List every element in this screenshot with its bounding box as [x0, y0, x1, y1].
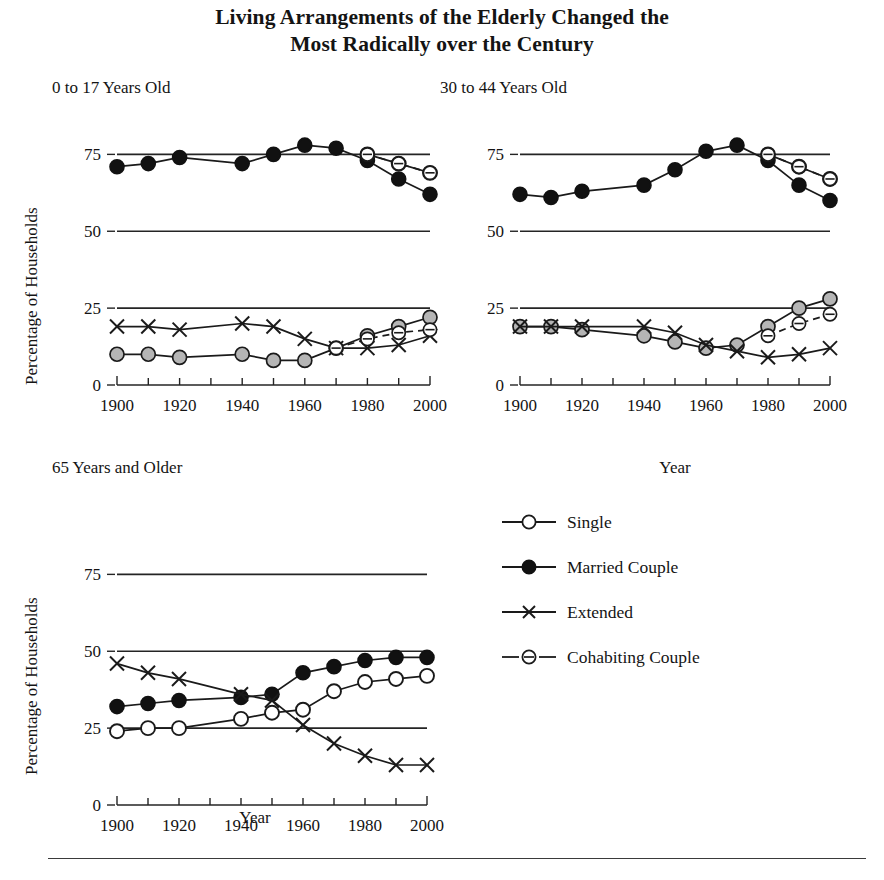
marker-open-circle	[358, 675, 372, 689]
marker-filled-circle	[575, 184, 589, 198]
plot-area-0-to-17: 0255075190019201940196019802000	[0, 70, 450, 410]
series-single	[513, 292, 837, 355]
marker-gray-circle	[298, 353, 312, 367]
y-axis-tick-label: 25	[84, 299, 101, 318]
marker-open-circle	[296, 703, 310, 717]
marker-filled-circle	[110, 160, 124, 174]
plot-area-30-to-44: 0255075190019201940196019802000	[403, 70, 884, 410]
marker-filled-circle	[699, 144, 713, 158]
marker-gray-circle	[792, 301, 806, 315]
marker-filled-circle	[172, 693, 186, 707]
x-axis-tick-label: 1980	[350, 396, 384, 415]
series-married-couple	[110, 650, 434, 713]
x-axis-tick-label: 1960	[288, 396, 322, 415]
legend-swatch-single	[500, 511, 558, 533]
legend-item-cohabiting-couple[interactable]: Cohabiting Couple	[500, 645, 700, 669]
x-axis-tick-label: 1900	[503, 396, 537, 415]
x-axis-tick-label: 1960	[689, 396, 723, 415]
y-axis-tick-label: 0	[93, 796, 102, 815]
marker-filled-circle	[730, 138, 744, 152]
marker-gray-circle	[235, 347, 249, 361]
x-axis-tick-label: 1900	[100, 816, 134, 835]
marker-open-circle	[234, 712, 248, 726]
series-extended	[110, 317, 437, 356]
footer-rule	[48, 858, 866, 859]
legend-item-extended[interactable]: Extended	[500, 600, 633, 624]
y-axis-tick-label: 75	[487, 145, 504, 164]
x-axis-labels: 190019201940196019802000	[503, 396, 847, 415]
panel-0-to-17: 0 to 17 Years Old Percentage of Househol…	[0, 70, 450, 410]
series-single	[110, 310, 437, 367]
legend-label-single: Single	[567, 512, 612, 533]
y-axis-tick-label: 0	[93, 376, 102, 395]
panel-30-to-44: 30 to 44 Years Old 025507519001920194019…	[403, 70, 884, 490]
x-axis-title-panel2: Year	[635, 458, 715, 478]
marker-filled-circle	[637, 178, 651, 192]
x-axis-tick-label: 2000	[813, 396, 847, 415]
marker-filled-circle	[173, 150, 187, 164]
x-axis-tick-label: 1920	[163, 396, 197, 415]
marker-open-circle	[110, 724, 124, 738]
marker-gray-circle	[141, 347, 155, 361]
marker-filled-circle	[358, 653, 372, 667]
y-axis-tick-label: 0	[496, 376, 505, 395]
y-axis-tick-label: 50	[84, 642, 101, 661]
x-axis	[117, 376, 430, 385]
legend-label-cohabiting-couple: Cohabiting Couple	[567, 647, 700, 668]
y-axis: 0255075	[84, 565, 115, 815]
panel-65-and-older: 65 Years and Older Percentage of Househo…	[0, 450, 450, 850]
y-axis: 0255075	[487, 145, 518, 395]
marker-gray-circle	[575, 323, 589, 337]
series-married-couple	[110, 138, 437, 201]
marker-filled-circle	[141, 697, 155, 711]
marker-gray-circle	[110, 347, 124, 361]
y-axis-tick-label: 50	[487, 222, 504, 241]
marker-open-circle	[327, 684, 341, 698]
x-axis	[520, 376, 830, 385]
figure-title: Living Arrangements of the Elderly Chang…	[0, 4, 884, 58]
marker-filled-circle	[544, 190, 558, 204]
gridlines	[117, 154, 430, 308]
marker-filled-circle	[110, 700, 124, 714]
marker-filled-circle	[235, 157, 249, 171]
marker-gray-circle	[173, 350, 187, 364]
marker-open-circle	[265, 706, 279, 720]
marker-filled-circle	[389, 650, 403, 664]
legend-label-extended: Extended	[567, 602, 633, 623]
y-axis-tick-label: 25	[84, 719, 101, 738]
x-axis-tick-label: 1940	[627, 396, 661, 415]
legend-item-married-couple[interactable]: Married Couple	[500, 555, 678, 579]
x-axis-tick-label: 1940	[225, 396, 259, 415]
series-married-couple	[513, 138, 837, 207]
y-axis-tick-label: 75	[84, 145, 101, 164]
panel-title-65-and-older: 65 Years and Older	[52, 458, 182, 478]
marker-filled-circle	[668, 163, 682, 177]
legend-item-single[interactable]: Single	[500, 510, 612, 534]
legend-swatch-extended	[500, 601, 558, 623]
x-axis-title-panel3: Year	[215, 808, 295, 828]
figure-root: Living Arrangements of the Elderly Chang…	[0, 0, 884, 880]
figure-title-line2: Most Radically over the Century	[0, 31, 884, 58]
figure-title-line1: Living Arrangements of the Elderly Chang…	[215, 5, 669, 29]
marker-open-circle	[420, 669, 434, 683]
marker-filled-circle	[141, 157, 155, 171]
marker-filled-circle	[327, 660, 341, 674]
marker-filled-circle	[792, 178, 806, 192]
x-axis-tick-label: 1900	[100, 396, 134, 415]
marker-gray-circle	[267, 353, 281, 367]
plot-area-65-and-older: 0255075190019201940196019802000	[0, 490, 450, 830]
marker-filled-circle	[298, 138, 312, 152]
marker-gray-circle	[823, 292, 837, 306]
marker-open-circle	[172, 721, 186, 735]
legend: Single Married Couple Extended	[500, 500, 830, 685]
series-line	[117, 676, 427, 731]
legend-label-married-couple: Married Couple	[567, 557, 678, 578]
marker-filled-circle	[267, 147, 281, 161]
y-axis-tick-label: 50	[84, 222, 101, 241]
x-axis-tick-label: 1920	[565, 396, 599, 415]
x-axis-labels: 190019201940196019802000	[100, 396, 447, 415]
marker-filled-circle	[420, 650, 434, 664]
marker-filled-circle	[513, 187, 527, 201]
marker-filled-circle	[296, 666, 310, 680]
marker-open-circle	[141, 721, 155, 735]
